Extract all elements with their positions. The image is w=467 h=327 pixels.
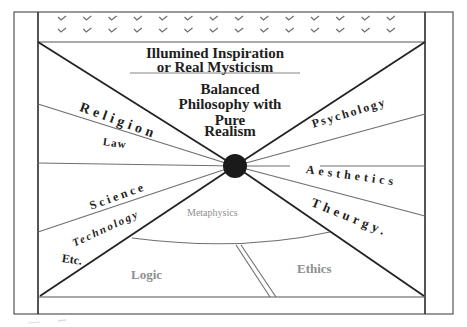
label-etc: Etc. [61, 252, 83, 267]
checkmark-icon [185, 16, 193, 20]
checkmark-icon [109, 28, 117, 32]
checkmark-icon [83, 28, 91, 32]
checkmark-icon [185, 28, 193, 32]
ray-left-law-science [38, 163, 235, 166]
checkmark-icon [159, 16, 167, 20]
checkmark-icon [362, 28, 370, 32]
checkmark-icon [336, 28, 344, 32]
checkmark-icon [83, 16, 91, 20]
label-logic: Logic [131, 268, 162, 281]
smudge [58, 320, 66, 321]
label-metaphysics: Metaphysics [187, 208, 238, 218]
checkmark-icon [109, 16, 117, 20]
label-ethics: Ethics [297, 262, 332, 275]
checkmark-icon [362, 16, 370, 20]
center-text-line-4: Realism [180, 124, 280, 139]
checkmark-icon [134, 16, 142, 20]
checkmark-icon [286, 16, 294, 20]
ray-left-science-technology [38, 166, 235, 232]
center-text-line-1: Balanced [150, 82, 310, 97]
checkmark-icon [58, 16, 66, 20]
logic-ethics-divider-b [241, 245, 276, 297]
checkmark-icon [286, 28, 294, 32]
checkmark-band [58, 16, 395, 32]
logic-ethics-divider-a [236, 245, 270, 297]
metaphysics-arc [132, 232, 330, 244]
checkmark-icon [235, 16, 243, 20]
checkmark-icon [336, 16, 344, 20]
smudge [28, 322, 40, 323]
checkmark-icon [387, 16, 395, 20]
checkmark-icon [210, 28, 218, 32]
center-dot [223, 154, 247, 178]
center-text-line-2: Philosophy with [140, 97, 320, 112]
checkmark-icon [134, 28, 142, 32]
checkmark-icon [260, 28, 268, 32]
checkmark-icon [210, 16, 218, 20]
checkmark-icon [159, 28, 167, 32]
title-line-2: or Real Mysticism [120, 60, 310, 75]
checkmark-icon [260, 16, 268, 20]
checkmark-icon [58, 28, 66, 32]
checkmark-icon [235, 28, 243, 32]
checkmark-icon [311, 16, 319, 20]
checkmark-icon [387, 28, 395, 32]
checkmark-icon [311, 28, 319, 32]
